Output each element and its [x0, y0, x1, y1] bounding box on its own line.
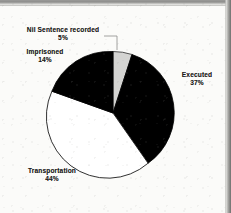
pie-label-transportation-name: Transportation [28, 167, 76, 174]
pie-label-imprisoned-percent: 14% [14, 56, 76, 64]
pie-label-executed: Executed 37% [172, 71, 222, 88]
pie-chart: Nil Sentence recorded 5% Imprisoned 14% … [0, 0, 231, 213]
pie-label-executed-percent: 37% [172, 79, 222, 87]
pie-label-imprisoned-name: Imprisoned [27, 48, 64, 55]
pie-label-transportation-percent: 44% [11, 175, 93, 183]
pie-label-imprisoned: Imprisoned 14% [14, 48, 76, 65]
pie-label-transportation: Transportation 44% [11, 167, 93, 184]
pie-label-nil-sentence: Nil Sentence recorded 5% [16, 26, 110, 43]
scan-artifact-right-band [226, 0, 231, 213]
pie-chart-screenshot: Nil Sentence recorded 5% Imprisoned 14% … [0, 0, 231, 213]
pie-label-nil-sentence-name: Nil Sentence recorded [27, 26, 99, 33]
pie-label-executed-name: Executed [182, 71, 212, 78]
pie-label-nil-sentence-percent: 5% [16, 34, 110, 42]
